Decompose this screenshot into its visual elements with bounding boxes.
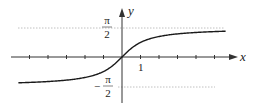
y-label-pi-half-num: π: [104, 14, 110, 26]
x-axis-label: x: [239, 49, 246, 64]
x-axis-arrow-icon: [229, 54, 238, 60]
y-label-neg-pi-half-sign: −: [94, 80, 100, 92]
y-label-pi-half-den: 2: [104, 28, 110, 40]
y-label-neg-pi-half-num: π: [105, 73, 111, 85]
y-label-neg-pi-half-den: 2: [105, 87, 111, 99]
arctan-chart: x y 1 π 2 − π 2: [0, 0, 257, 108]
y-axis-arrow-icon: [119, 8, 125, 17]
y-axis-label: y: [126, 3, 134, 18]
x-tick-label-1: 1: [138, 61, 144, 73]
